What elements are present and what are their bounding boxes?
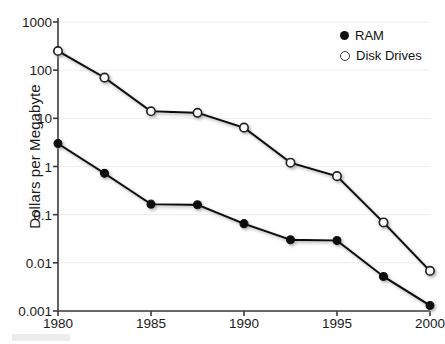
data-point <box>333 237 341 245</box>
legend-entry-disk-drives: Disk Drives <box>340 48 422 63</box>
data-point <box>240 220 248 228</box>
data-point <box>426 267 434 275</box>
data-point <box>100 73 108 81</box>
data-point <box>240 123 248 131</box>
data-point <box>379 218 387 226</box>
data-point <box>286 158 294 166</box>
legend-label-ram: RAM <box>355 28 384 43</box>
legend-label-disk-drives: Disk Drives <box>356 48 422 63</box>
series-line <box>58 51 430 271</box>
series-ram <box>54 140 434 310</box>
data-point <box>333 172 341 180</box>
data-point <box>194 201 202 209</box>
series-disk-drives <box>54 47 434 275</box>
legend-entry-ram: RAM <box>340 28 384 43</box>
data-point <box>147 200 155 208</box>
data-point <box>54 47 62 55</box>
data-point <box>193 109 201 117</box>
data-point <box>287 236 295 244</box>
data-point <box>426 302 434 310</box>
open-circle-icon <box>340 51 350 61</box>
data-point <box>147 107 155 115</box>
data-point <box>101 169 109 177</box>
data-point <box>54 140 62 148</box>
caption-fragment <box>12 334 70 341</box>
filled-circle-icon <box>340 31 349 40</box>
data-point <box>380 273 388 281</box>
